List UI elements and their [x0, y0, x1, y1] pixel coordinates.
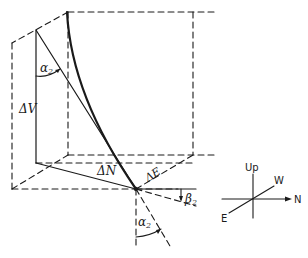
floor-diagonal-dashed	[12, 155, 68, 189]
delta-e-label: ΔE	[142, 165, 163, 185]
top-slant-dashed	[12, 12, 68, 43]
alpha-top-label: α2	[40, 61, 53, 76]
delta-n-label: ΔN	[96, 164, 117, 178]
beta-label: β2	[184, 192, 197, 207]
compass-n-arrowhead	[285, 197, 292, 202]
compass-north-label: N	[294, 194, 301, 205]
alpha-bottom-arrowhead	[156, 229, 161, 234]
compass-up-label: Up	[245, 162, 259, 173]
dashed-box	[12, 12, 218, 248]
compass-west-label: W	[274, 175, 284, 186]
geometry-figure: α2 ΔV ΔN ΔE β2 α2 Up W N E	[0, 0, 308, 258]
alpha-bottom-label: α2	[138, 215, 151, 230]
diagram-canvas: α2 ΔV ΔN ΔE β2 α2 Up W N E	[0, 0, 308, 258]
point-p	[134, 187, 138, 191]
compass-east-label: E	[221, 213, 227, 224]
delta-v-label: ΔV	[18, 102, 38, 116]
